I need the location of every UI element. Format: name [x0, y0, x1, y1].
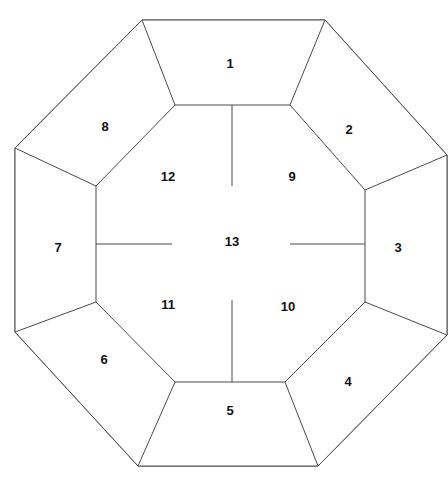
region-1-label: 1	[226, 56, 233, 71]
region-7-label: 7	[54, 240, 61, 255]
octagon-dissection-svg: 12345678910111213	[0, 0, 448, 484]
region-5-label: 5	[226, 403, 233, 418]
region-3-label: 3	[394, 240, 401, 255]
region-2-label: 2	[345, 122, 352, 137]
region-9-label: 9	[288, 169, 295, 184]
region-6-label: 6	[100, 352, 107, 367]
region-8-label: 8	[101, 119, 108, 134]
octagon-diagram: 12345678910111213	[0, 0, 448, 484]
region-4-label: 4	[344, 374, 352, 389]
region-10-label: 10	[281, 299, 295, 314]
region-11-label: 11	[161, 297, 175, 312]
region-13-label: 13	[225, 234, 239, 249]
region-12-label: 12	[161, 169, 175, 184]
